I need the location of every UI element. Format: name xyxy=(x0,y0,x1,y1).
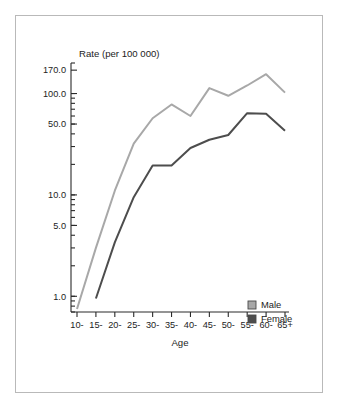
y-axis-tick-label: 100.0 xyxy=(43,89,66,99)
legend-label-female: Female xyxy=(261,313,292,324)
x-axis-tick-label: 15- xyxy=(89,320,102,330)
x-axis-tick-label: 30- xyxy=(146,320,159,330)
figure-frame: 170.0100.050.010.05.01.010-15-20-25-30-3… xyxy=(15,15,323,393)
x-axis-tick-label: 50- xyxy=(222,320,235,330)
rate-by-age-line-chart: 170.0100.050.010.05.01.010-15-20-25-30-3… xyxy=(16,16,322,392)
y-axis-tick-label: 170.0 xyxy=(43,65,66,75)
x-axis-title: Age xyxy=(171,337,188,348)
x-axis-tick-label: 40- xyxy=(184,320,197,330)
series-line-male xyxy=(77,74,285,309)
y-axis-tick-label: 50.0 xyxy=(48,119,66,129)
x-axis-tick-label: 20- xyxy=(108,320,121,330)
y-axis-tick-label: 10.0 xyxy=(48,190,66,200)
x-axis-tick-label: 45- xyxy=(203,320,216,330)
y-axis-tick-label: 1.0 xyxy=(53,292,66,302)
y-axis-caption: Rate (per 100 000) xyxy=(79,48,160,59)
x-axis-tick-label: 10- xyxy=(70,320,83,330)
legend-swatch-male xyxy=(248,301,256,309)
y-axis-tick-label: 5.0 xyxy=(53,221,66,231)
legend-swatch-female xyxy=(248,315,256,323)
x-axis-tick-label: 25- xyxy=(127,320,140,330)
x-axis-tick-label: 35- xyxy=(165,320,178,330)
legend-label-male: Male xyxy=(261,299,281,310)
series-line-female xyxy=(96,113,285,298)
